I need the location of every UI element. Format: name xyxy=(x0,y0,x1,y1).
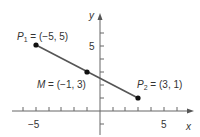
x-tick-label-5: 5 xyxy=(161,119,167,130)
x-axis-label: x xyxy=(185,121,192,132)
x-axis xyxy=(12,107,194,114)
label-p1: P1 = (−5, 5) xyxy=(17,31,68,43)
y-axis-label: y xyxy=(88,10,95,21)
label-midpoint-m: M = (−1, 3) xyxy=(37,79,86,90)
point-midpoint-m xyxy=(84,69,89,74)
coordinate-plane: y x 5 −5 5 P1 = (−5, 5) M = (−1, 3) P2 =… xyxy=(0,0,200,137)
point-p1 xyxy=(33,42,38,47)
x-tick-label-neg5: −5 xyxy=(28,119,40,130)
y-tick-label-5: 5 xyxy=(89,41,95,52)
x-axis-arrow-icon xyxy=(187,109,194,114)
y-axis xyxy=(98,13,105,135)
y-axis-arrow-icon xyxy=(98,13,103,20)
point-p2 xyxy=(135,95,140,100)
label-p2: P2 = (3, 1) xyxy=(137,79,182,91)
